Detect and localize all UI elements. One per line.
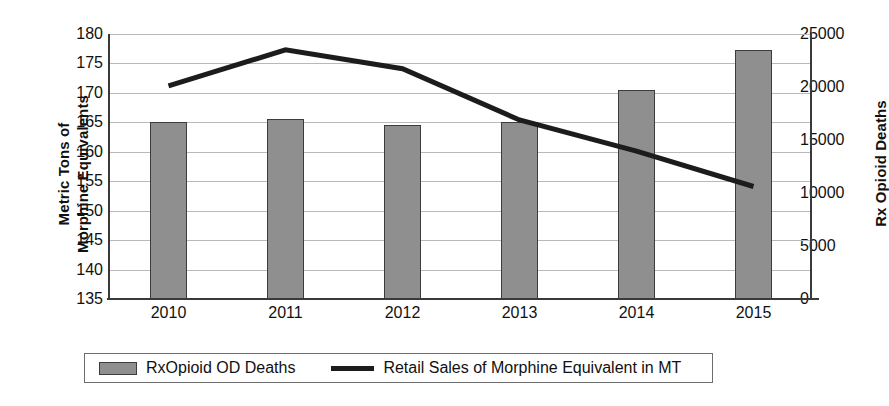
y-axis-left-tick-label: 135 bbox=[57, 291, 103, 307]
chart-figure: Metric Tons of Morphine Equivalents Rx O… bbox=[0, 0, 889, 406]
y-axis-left-tick-label: 165 bbox=[57, 114, 103, 130]
y-axis-right-title: Rx Opioid Deaths bbox=[872, 24, 889, 304]
y-axis-left-tick-label: 155 bbox=[57, 173, 103, 189]
x-axis-tick-labels: 201020112012201320142015 bbox=[110, 304, 812, 328]
line-series-path bbox=[169, 50, 754, 187]
x-axis-tick-label: 2011 bbox=[227, 304, 344, 322]
y-axis-left-ticks: 180175170165160155150145140135 bbox=[57, 0, 103, 320]
y-axis-left-tick-label: 150 bbox=[57, 203, 103, 219]
y-axis-left-spine bbox=[108, 34, 110, 300]
x-axis-tick-label: 2014 bbox=[578, 304, 695, 322]
line-series bbox=[110, 34, 812, 299]
x-axis-spine bbox=[107, 298, 819, 300]
legend-line-swatch-icon bbox=[331, 366, 374, 371]
legend-item-line: Retail Sales of Morphine Equivalent in M… bbox=[331, 359, 681, 377]
y-axis-left-tick-label: 140 bbox=[57, 262, 103, 278]
x-axis-tick-label: 2013 bbox=[461, 304, 578, 322]
y-axis-right-spine bbox=[810, 34, 812, 300]
x-axis-tick-label: 2015 bbox=[695, 304, 812, 322]
legend-label-line: Retail Sales of Morphine Equivalent in M… bbox=[383, 359, 681, 377]
legend-item-bars: RxOpioid OD Deaths bbox=[99, 359, 295, 377]
y-axis-left-tick-label: 180 bbox=[57, 26, 103, 42]
x-axis-tick-label: 2012 bbox=[344, 304, 461, 322]
y-axis-left-tick-label: 175 bbox=[57, 55, 103, 71]
y-axis-left-tick-label: 160 bbox=[57, 144, 103, 160]
x-axis-tick-label: 2010 bbox=[110, 304, 227, 322]
plot-area bbox=[110, 34, 812, 299]
y-axis-left-tick-label: 170 bbox=[57, 85, 103, 101]
legend-bar-swatch-icon bbox=[99, 362, 137, 375]
legend-label-bars: RxOpioid OD Deaths bbox=[146, 359, 295, 377]
chart-legend: RxOpioid OD Deaths Retail Sales of Morph… bbox=[84, 353, 713, 383]
y-axis-left-tick-label: 145 bbox=[57, 232, 103, 248]
